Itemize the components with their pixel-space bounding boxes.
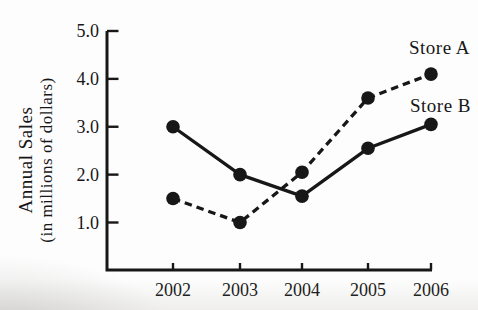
x-tick-label: 2005 [336, 280, 400, 300]
data-point-store-b [233, 168, 247, 182]
y-axis-title: Annual Sales (in millions of dollars) [15, 50, 57, 270]
data-point-store-a [233, 216, 247, 230]
data-point-store-a [361, 91, 375, 105]
x-tick-label: 2003 [208, 280, 272, 300]
series-label-store-b: Store B [410, 96, 471, 115]
y-tick-label: 5.0 [58, 21, 99, 41]
data-point-store-b [295, 189, 309, 203]
x-tick-label: 2004 [270, 280, 334, 300]
series-label-store-a: Store A [409, 38, 470, 57]
series-line-store-b [173, 124, 431, 196]
y-tick-label: 3.0 [58, 117, 99, 137]
data-point-store-b [424, 118, 438, 132]
y-tick-label: 1.0 [58, 213, 99, 233]
y-axis-title-line2: (in millions of dollars) [36, 50, 57, 270]
data-point-store-a [295, 165, 309, 179]
axis-lines [107, 31, 432, 270]
data-point-store-b [166, 120, 180, 134]
data-point-store-a [166, 192, 180, 206]
data-point-store-a [424, 67, 438, 81]
y-tick-label: 2.0 [58, 165, 99, 185]
y-axis-title-line1: Annual Sales [15, 50, 36, 270]
x-tick-label: 2006 [399, 280, 463, 300]
plot-canvas [0, 0, 478, 310]
sales-line-chart-figure: Annual Sales (in millions of dollars) 5.… [0, 0, 478, 310]
data-point-store-b [361, 141, 375, 155]
x-tick-label: 2002 [141, 280, 205, 300]
y-tick-label: 4.0 [58, 69, 99, 89]
